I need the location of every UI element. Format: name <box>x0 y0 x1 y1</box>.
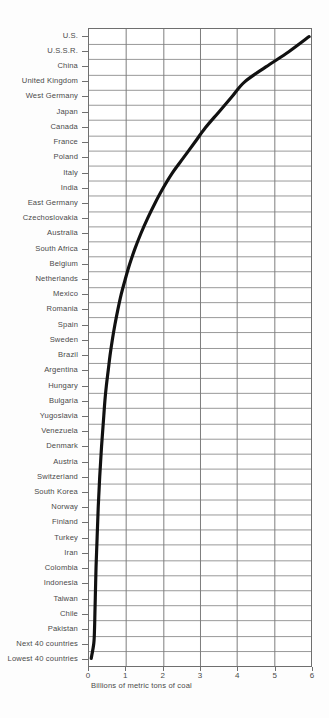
y-axis-tick-label: Argentina <box>0 366 78 374</box>
y-axis-tick-label: Italy <box>0 169 78 177</box>
cumulative-curve-line <box>91 37 309 659</box>
y-axis-tick-label: China <box>0 62 78 70</box>
y-axis-tick-label: U.S. <box>0 32 78 40</box>
y-axis-tick-label: South Korea <box>0 488 78 496</box>
y-axis-tick-label: Switzerland <box>0 473 78 481</box>
y-axis-tick-label: U.S.S.R. <box>0 47 78 55</box>
y-axis-tick-label: Pakistan <box>0 625 78 633</box>
y-axis-tick-label: South Africa <box>0 245 78 253</box>
y-axis-tick-label: Hungary <box>0 382 78 390</box>
y-axis-tick-label: Netherlands <box>0 275 78 283</box>
x-axis-tick-label: 3 <box>198 671 202 681</box>
y-axis-tick-label: Colombia <box>0 564 78 572</box>
y-axis-tick-label: Mexico <box>0 290 78 298</box>
y-axis-tick-label: Canada <box>0 123 78 131</box>
y-axis-tick-label: Spain <box>0 321 78 329</box>
plot-area <box>88 28 312 667</box>
y-axis-tick-label: India <box>0 184 78 192</box>
y-axis-tick-label: Romania <box>0 305 78 313</box>
y-axis-tick-label: East Germany <box>0 199 78 207</box>
y-axis-tick-label: United Kingdom <box>0 77 78 85</box>
y-axis-tick-label: Austria <box>0 458 78 466</box>
y-axis-tick-label: Venezuela <box>0 427 78 435</box>
y-axis-tick-label: Next 40 countries <box>0 640 78 648</box>
y-axis-tick-label: Sweden <box>0 336 78 344</box>
x-axis-tick-label: 4 <box>235 671 239 681</box>
y-axis-tick-label: Czechoslovakia <box>0 214 78 222</box>
y-axis-tick-label: Brazil <box>0 351 78 359</box>
x-axis-tick-label: 2 <box>160 671 164 681</box>
y-axis-tick-label: Yugoslavia <box>0 412 78 420</box>
y-axis-tick-label: Finland <box>0 518 78 526</box>
x-axis-tick-label: 5 <box>272 671 276 681</box>
y-axis-tick-label: Indonesia <box>0 579 78 587</box>
y-axis-tick-label: Poland <box>0 153 78 161</box>
y-axis-tick-label: Chile <box>0 610 78 618</box>
y-axis-tick-label: Denmark <box>0 442 78 450</box>
y-axis-tick-label: Norway <box>0 503 78 511</box>
y-axis-tick-label: Taiwan <box>0 595 78 603</box>
y-axis-tick-label: France <box>0 138 78 146</box>
y-axis-tick-label: Iran <box>0 549 78 557</box>
y-axis-tick-label: Bulgaria <box>0 397 78 405</box>
y-axis-tick-label: Lowest 40 countries <box>0 655 78 663</box>
y-axis-tick-label: Australia <box>0 229 78 237</box>
y-axis-tick-label: Turkey <box>0 534 78 542</box>
x-axis-tick-label: 0 <box>86 671 90 681</box>
x-axis-tick-label: 6 <box>310 671 314 681</box>
y-axis-tick-label: Japan <box>0 108 78 116</box>
x-axis-tick-label: 1 <box>123 671 127 681</box>
y-axis-category-labels: U.S.U.S.S.R.ChinaUnited KingdomWest Germ… <box>0 28 84 667</box>
coal-consumption-chart: U.S.U.S.S.R.ChinaUnited KingdomWest Germ… <box>0 0 329 718</box>
x-axis-title: Billions of metric tons of coal <box>91 681 192 690</box>
cumulative-curve <box>89 29 311 666</box>
y-axis-tick-label: West Germany <box>0 92 78 100</box>
y-axis-tick-label: Belgium <box>0 260 78 268</box>
